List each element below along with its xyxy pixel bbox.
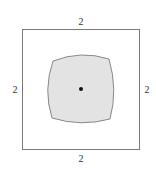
label-left: 2: [13, 84, 18, 95]
square-diagram: 2 2 2 2: [0, 0, 156, 172]
label-top: 2: [79, 16, 84, 27]
center-point: [79, 87, 83, 91]
label-right: 2: [145, 84, 150, 95]
label-bottom: 2: [79, 153, 84, 164]
